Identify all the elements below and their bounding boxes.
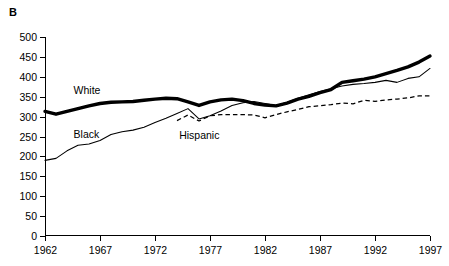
series-annotation-white: White [74,84,101,96]
x-tick-label: 1972 [144,244,168,256]
y-tick-label: 500 [19,31,37,43]
y-tick-label: 300 [19,111,37,123]
series-line-white [45,56,430,114]
series-annotation-hispanic: Hispanic [179,129,219,141]
y-tick-label: 400 [19,71,37,83]
series-line-black [45,68,430,160]
y-axis-ticks [40,38,46,237]
x-tick-label: 1992 [364,244,388,256]
x-tick-label: 1962 [34,244,58,256]
x-tick-label: 1997 [419,244,443,256]
x-axis-ticks [46,236,431,242]
figure-panel-b: B 050100150200250300350400450500 1962196… [0,0,449,266]
x-tick-label: 1977 [199,244,223,256]
x-tick-label: 1982 [254,244,278,256]
y-tick-label: 50 [25,210,37,222]
y-tick-label: 0 [31,230,37,242]
y-tick-label: 100 [19,190,37,202]
chart-axes: 050100150200250300350400450500 196219671… [19,31,442,256]
chart-series-group [45,56,430,160]
x-tick-label: 1987 [309,244,333,256]
line-chart: 050100150200250300350400450500 196219671… [0,0,449,266]
y-tick-label: 250 [19,131,37,143]
series-annotations: WhiteBlackHispanic [74,84,220,141]
x-axis-tick-labels: 19621967197219771982198719921997 [34,244,443,256]
y-tick-label: 450 [19,51,37,63]
y-tick-label: 150 [19,170,37,182]
x-tick-label: 1967 [89,244,113,256]
y-tick-label: 200 [19,150,37,162]
y-axis-tick-labels: 050100150200250300350400450500 [19,31,37,242]
y-tick-label: 350 [19,91,37,103]
series-annotation-black: Black [74,128,100,140]
